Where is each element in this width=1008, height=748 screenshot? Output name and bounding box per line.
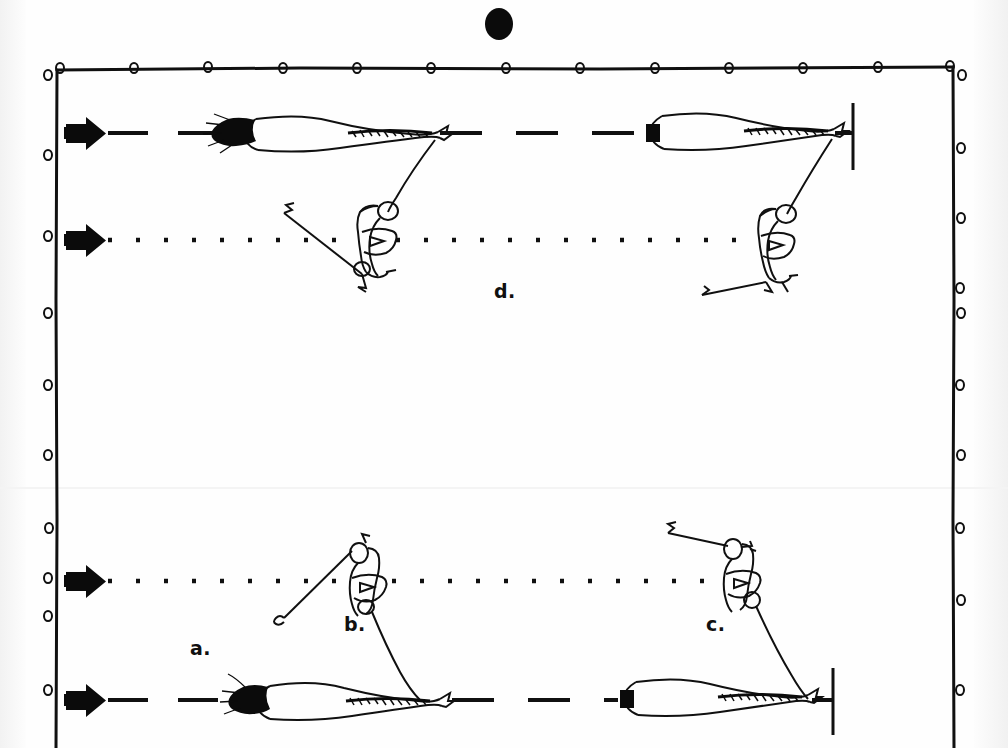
direction-arrow-lower-dotted	[64, 565, 106, 598]
direction-arrow-upper-dashed	[64, 117, 106, 150]
tether-upper-left	[388, 140, 435, 212]
panel-label-b: b.	[344, 613, 366, 635]
tether-upper-right	[787, 139, 832, 214]
panel-label-a: a.	[190, 637, 211, 659]
drawing-layer	[0, 0, 1008, 748]
creature-upper-right-head-node	[646, 124, 660, 142]
creature-upper-left	[244, 116, 452, 151]
diagram-page: a. b. c. d.	[0, 0, 1008, 748]
rider-upper-left	[354, 202, 398, 277]
rider-upper-right	[758, 205, 798, 292]
frame-tick-circles-right	[956, 70, 966, 695]
pole-upper-right	[702, 282, 772, 295]
tether-lower-left	[372, 612, 420, 700]
rider-lower-right	[724, 539, 761, 612]
creature-upper-left-tail-hatching	[348, 130, 432, 137]
pole-upper-left	[284, 203, 366, 292]
creature-lower-right-head-node	[620, 690, 634, 708]
panel-label-d: d.	[494, 280, 516, 302]
rider-lower-left	[350, 534, 387, 616]
direction-arrow-lower-dashed	[64, 684, 106, 717]
pole-lower-left	[274, 551, 352, 625]
pole-lower-right	[668, 522, 728, 546]
tether-lower-right	[756, 606, 808, 699]
frame-tick-circles-left	[44, 70, 53, 695]
panel-label-c: c.	[706, 613, 725, 635]
direction-arrow-upper-dotted	[64, 224, 106, 257]
